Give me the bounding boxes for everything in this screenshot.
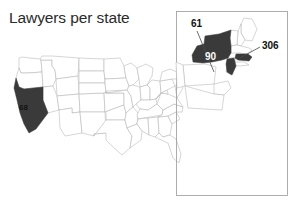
inset-state-nj-highlighted[interactable] bbox=[226, 58, 236, 75]
inset-state-md bbox=[214, 81, 231, 95]
main-us-map bbox=[14, 56, 184, 163]
inset-state-ma bbox=[231, 45, 252, 54]
state-in bbox=[140, 85, 150, 100]
inset-northeast-map bbox=[176, 18, 260, 110]
value-label-california: 68 bbox=[19, 104, 28, 112]
state-sd bbox=[79, 71, 105, 83]
state-co bbox=[79, 93, 105, 112]
inset-state-outlines bbox=[176, 18, 257, 110]
state-al bbox=[148, 117, 159, 137]
state-fl bbox=[155, 133, 181, 163]
value-label-connecticut: 306 bbox=[262, 41, 279, 51]
value-label-new-jersey: 61 bbox=[191, 19, 202, 29]
value-label-new-york: 90 bbox=[205, 52, 216, 62]
state-wa bbox=[19, 57, 42, 73]
figure-canvas: Lawyers per state bbox=[0, 0, 300, 211]
inset-state-vt bbox=[230, 30, 238, 46]
choropleth-map bbox=[0, 0, 300, 211]
state-az bbox=[59, 108, 82, 136]
state-nd bbox=[79, 58, 104, 71]
state-ny bbox=[160, 69, 178, 81]
inset-state-pa bbox=[183, 64, 216, 86]
inset-state-ct-highlighted[interactable] bbox=[235, 54, 252, 61]
state-mn bbox=[104, 58, 126, 79]
state-wy bbox=[56, 76, 79, 96]
state-ne bbox=[79, 83, 106, 94]
